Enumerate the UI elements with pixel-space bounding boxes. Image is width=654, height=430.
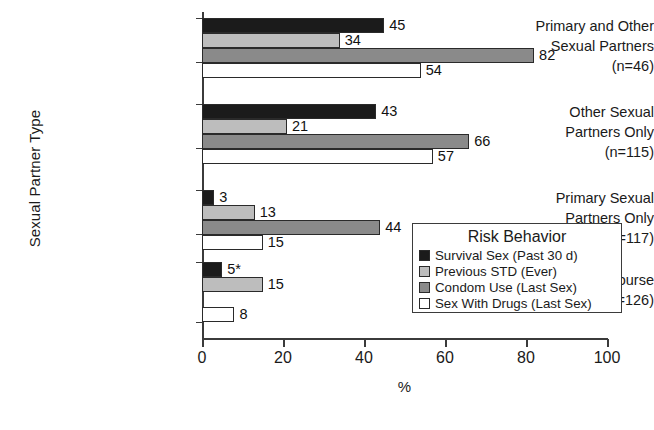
legend-item-label: Sex With Drugs (Last Sex) xyxy=(435,296,592,311)
bar xyxy=(202,134,469,149)
bar-value-label: 54 xyxy=(426,63,442,78)
bar-value-label: 21 xyxy=(292,119,308,134)
bar-value-label: 5* xyxy=(227,262,241,277)
bar-value-label: 66 xyxy=(474,134,490,149)
x-axis-title: % xyxy=(202,378,607,395)
bar xyxy=(202,235,263,250)
y-axis-title: Sexual Partner Type xyxy=(26,59,43,299)
legend-item-group: Survival Sex (Past 30 d)Previous STD (Ev… xyxy=(419,247,615,311)
legend-swatch-icon xyxy=(419,298,430,309)
bar xyxy=(202,307,234,322)
bar xyxy=(202,262,222,277)
bar xyxy=(202,63,421,78)
bar-value-label: 8 xyxy=(239,307,247,322)
bar xyxy=(202,48,534,63)
x-axis-tick xyxy=(202,339,204,347)
bar xyxy=(202,119,287,134)
x-axis-tick-label: 80 xyxy=(496,349,556,367)
x-axis-line xyxy=(202,338,608,340)
legend-item: Sex With Drugs (Last Sex) xyxy=(419,295,615,311)
x-axis-tick xyxy=(445,339,447,347)
bar xyxy=(202,220,380,235)
legend-item-label: Condom Use (Last Sex) xyxy=(435,280,577,295)
x-axis-tick-label: 100 xyxy=(577,349,637,367)
legend: Risk Behavior Survival Sex (Past 30 d)Pr… xyxy=(412,223,622,313)
bar-value-label: 45 xyxy=(389,18,405,33)
bar xyxy=(202,18,384,33)
legend-item: Previous STD (Ever) xyxy=(419,263,615,279)
legend-item-label: Previous STD (Ever) xyxy=(435,264,557,279)
bar-value-label: 15 xyxy=(268,235,284,250)
legend-item: Condom Use (Last Sex) xyxy=(419,279,615,295)
x-axis-tick-label: 60 xyxy=(415,349,475,367)
legend-title: Risk Behavior xyxy=(419,227,615,246)
bar-chart-figure: Sexual Partner Type Primary and OtherSex… xyxy=(0,0,654,430)
bar-value-label: 44 xyxy=(385,220,401,235)
bar xyxy=(202,104,376,119)
bar xyxy=(202,277,263,292)
bar-value-label: 57 xyxy=(438,149,454,164)
legend-item: Survival Sex (Past 30 d) xyxy=(419,247,615,263)
x-axis-tick-label: 20 xyxy=(253,349,313,367)
bar-value-label: 43 xyxy=(381,104,397,119)
bar xyxy=(202,190,214,205)
legend-swatch-icon xyxy=(419,266,430,277)
bar-value-label: 13 xyxy=(260,205,276,220)
legend-swatch-icon xyxy=(419,282,430,293)
legend-swatch-icon xyxy=(419,250,430,261)
x-axis-tick-label: 0 xyxy=(172,349,232,367)
bar xyxy=(202,149,433,164)
x-axis-tick-label: 40 xyxy=(334,349,394,367)
bar-value-label: 82 xyxy=(539,48,555,63)
x-axis-tick xyxy=(283,339,285,347)
x-axis-tick xyxy=(607,339,609,347)
legend-item-label: Survival Sex (Past 30 d) xyxy=(435,248,578,263)
bar xyxy=(202,33,340,48)
bar-value-label: 15 xyxy=(268,277,284,292)
x-axis-tick xyxy=(364,339,366,347)
bar xyxy=(202,205,255,220)
bar-value-label: 34 xyxy=(345,33,361,48)
x-axis-tick xyxy=(526,339,528,347)
bar-value-label: 3 xyxy=(219,190,227,205)
